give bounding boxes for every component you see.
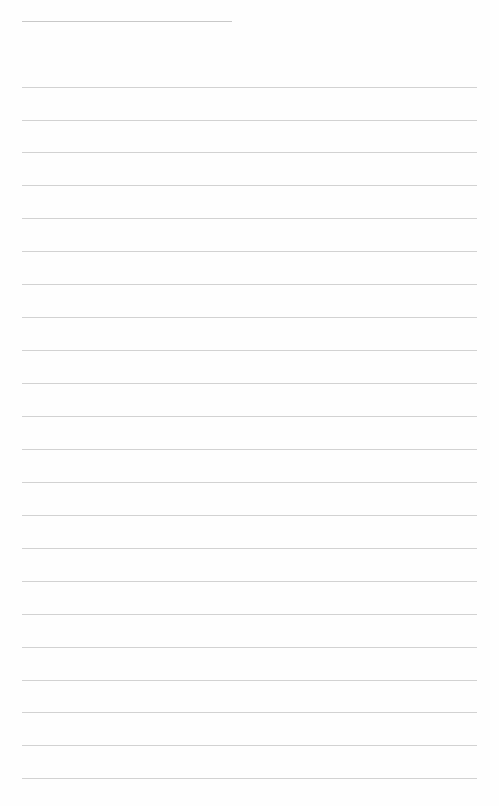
ruled-line <box>22 581 477 582</box>
ruled-line <box>22 515 477 516</box>
ruled-line <box>22 383 477 384</box>
ruled-line <box>22 778 477 779</box>
ruled-line <box>22 712 477 713</box>
ruled-line <box>22 284 477 285</box>
ruled-line <box>22 218 477 219</box>
ruled-line <box>22 647 477 648</box>
ruled-line <box>22 350 477 351</box>
ruled-line <box>22 548 477 549</box>
lined-page <box>0 0 499 806</box>
ruled-line <box>22 449 477 450</box>
ruled-line <box>22 317 477 318</box>
ruled-line <box>22 251 477 252</box>
ruled-line <box>22 482 477 483</box>
ruled-line <box>22 416 477 417</box>
ruled-line <box>22 185 477 186</box>
ruled-line <box>22 745 477 746</box>
title-line <box>22 21 232 22</box>
ruled-line <box>22 614 477 615</box>
ruled-line <box>22 680 477 681</box>
ruled-line <box>22 152 477 153</box>
ruled-line <box>22 120 477 121</box>
ruled-line <box>22 87 477 88</box>
